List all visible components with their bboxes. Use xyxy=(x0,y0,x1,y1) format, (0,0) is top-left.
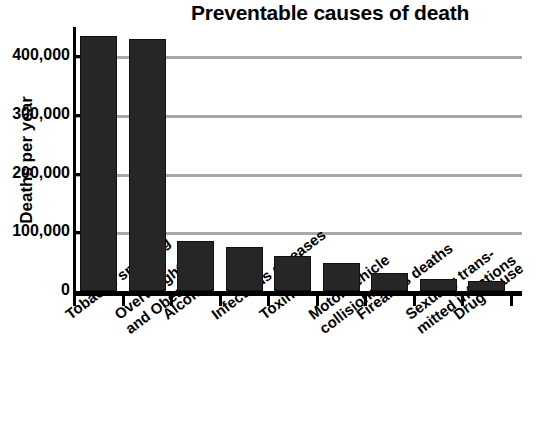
x-tick-mark xyxy=(510,296,513,306)
chart-title: Preventable causes of death xyxy=(130,1,530,25)
bar[interactable] xyxy=(468,281,505,291)
bar[interactable] xyxy=(129,39,166,291)
x-tick-mark xyxy=(461,296,464,306)
y-tick-label: 0 xyxy=(0,281,70,299)
x-tick-mark xyxy=(413,296,416,306)
y-tick-label: 200,000 xyxy=(0,164,70,182)
y-tick-label: 400,000 xyxy=(0,46,70,64)
x-tick-mark xyxy=(219,296,222,306)
x-tick-mark xyxy=(267,296,270,306)
bar[interactable] xyxy=(226,247,263,291)
y-tick-mark xyxy=(73,114,80,117)
x-tick-mark xyxy=(122,296,125,306)
y-tick-mark xyxy=(73,55,80,58)
y-tick-mark xyxy=(73,173,80,176)
y-tick-label: 100,000 xyxy=(0,222,70,240)
bar[interactable] xyxy=(420,279,457,291)
y-tick-label: 300,000 xyxy=(0,105,70,123)
y-axis-line xyxy=(73,27,76,295)
y-tick-mark xyxy=(73,231,80,234)
bar[interactable] xyxy=(177,241,214,291)
bar[interactable] xyxy=(323,263,360,291)
x-tick-mark xyxy=(364,296,367,306)
y-axis-tick-labels: 0100,000200,000300,000400,000 xyxy=(0,0,70,431)
x-tick-mark xyxy=(170,296,173,306)
x-tick-mark xyxy=(316,296,319,306)
bar[interactable] xyxy=(274,256,311,291)
bar[interactable] xyxy=(371,273,408,291)
x-tick-mark xyxy=(73,296,76,306)
bar[interactable] xyxy=(80,36,117,291)
chart-figure: Preventable causes of death Deaths per y… xyxy=(0,0,538,431)
